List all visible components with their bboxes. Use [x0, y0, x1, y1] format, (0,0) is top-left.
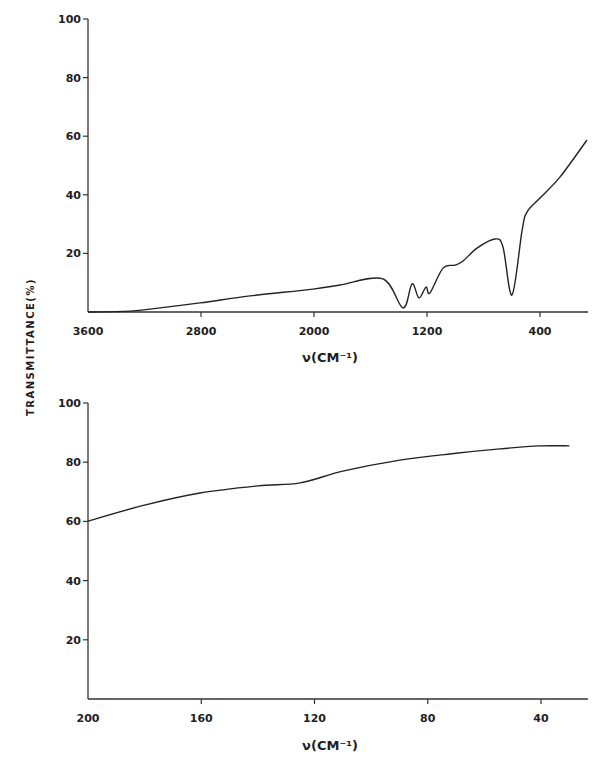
x-tick-label: 120 [303, 712, 326, 725]
bottom-plot: 204060801002001601208040ν(CM⁻¹) [58, 397, 588, 753]
top-spectrum-line [88, 140, 587, 312]
x-tick-label: 2800 [186, 325, 217, 338]
ir-spectra-figure: 204060801003600280020001200400ν(CM⁻¹) 20… [0, 0, 602, 778]
x-tick-label: 80 [420, 712, 436, 725]
y-tick-label: 100 [58, 397, 81, 410]
y-tick-label: 80 [66, 72, 82, 85]
x-tick-label: 400 [529, 325, 552, 338]
top-plot: 204060801003600280020001200400ν(CM⁻¹) [58, 13, 588, 365]
y-tick-label: 80 [66, 456, 82, 469]
x-tick-label: 1200 [412, 325, 443, 338]
x-tick-label: 40 [533, 712, 549, 725]
x-tick-label: 200 [77, 712, 100, 725]
x-tick-label: 2000 [299, 325, 330, 338]
top-x-axis-label: ν(CM⁻¹) [302, 350, 358, 365]
y-tick-label: 20 [66, 634, 82, 647]
bottom-spectrum-line [88, 446, 569, 521]
x-tick-label: 160 [190, 712, 213, 725]
x-tick-label: 3600 [73, 325, 104, 338]
y-tick-label: 60 [66, 515, 82, 528]
y-tick-label: 40 [66, 575, 82, 588]
y-tick-label: 20 [66, 247, 82, 260]
y-tick-label: 100 [58, 13, 81, 26]
bottom-x-axis-label: ν(CM⁻¹) [302, 738, 358, 753]
y-tick-label: 40 [66, 189, 82, 202]
y-axis-label: TRANSMITTANCE(%) [25, 278, 36, 416]
y-tick-label: 60 [66, 130, 82, 143]
